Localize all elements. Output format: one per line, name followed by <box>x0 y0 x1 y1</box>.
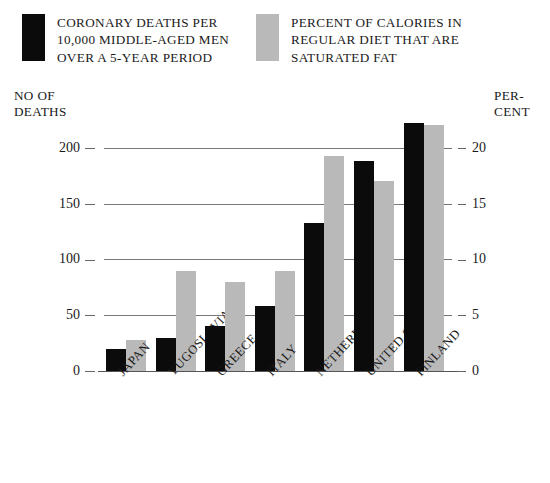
y-axis-left-tick: 50 <box>66 307 95 323</box>
legend-label-coronary-deaths: Coronary deaths per 10,000 middle-aged m… <box>57 14 229 66</box>
y-axis-left-tick: 100 <box>59 251 95 267</box>
y-axis-right-tick: 10 <box>458 251 486 267</box>
legend-swatch-gray-icon <box>256 14 279 61</box>
y-axis-right-caption: Per- cent <box>494 88 530 119</box>
y-axis-left-tick: 0 <box>73 363 95 379</box>
y-axis-right-tick: 0 <box>458 363 479 379</box>
bar-deaths-finland <box>404 123 424 371</box>
bar-deaths-united-states <box>354 161 374 371</box>
legend-swatch-black-icon <box>22 14 45 61</box>
legend-item-coronary-deaths: Coronary deaths per 10,000 middle-aged m… <box>22 14 229 66</box>
y-axis-left-tick: 200 <box>59 140 95 156</box>
chart-legend: Coronary deaths per 10,000 middle-aged m… <box>0 0 550 82</box>
bar-satfat-finland <box>424 125 444 371</box>
plot-area: 05010015020005101520JapanYugoslaviaGreec… <box>104 112 452 371</box>
bar-deaths-netherlands <box>304 223 324 371</box>
chart-root: Coronary deaths per 10,000 middle-aged m… <box>0 0 550 483</box>
y-axis-right-tick: 15 <box>458 196 486 212</box>
y-axis-right-tick: 5 <box>458 307 479 323</box>
y-axis-left-caption: No of Deaths <box>14 88 67 119</box>
gridline <box>104 259 452 260</box>
legend-label-saturated-fat: Percent of calories in regular diet that… <box>291 14 462 66</box>
y-axis-right-tick: 20 <box>458 140 486 156</box>
y-axis-left-tick: 150 <box>59 196 95 212</box>
gridline <box>104 204 452 205</box>
legend-item-saturated-fat: Percent of calories in regular diet that… <box>256 14 462 66</box>
gridline <box>104 148 452 149</box>
